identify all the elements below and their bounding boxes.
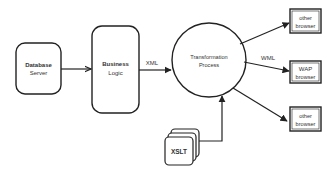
edge-transform-to-browser-bottom — [233, 88, 287, 121]
edge-transform-to-browser-top — [240, 23, 289, 44]
xslt-node: XSLT — [165, 129, 199, 165]
browser-bottom-label-line2: browser — [296, 121, 316, 127]
browser-top-label-line2: browser — [296, 23, 316, 29]
database-server-node: Database Server — [16, 43, 61, 94]
wap-browser-node: WAP browser — [290, 61, 321, 83]
xml-edge-label: XML — [146, 60, 159, 66]
edge-xslt-to-transform — [199, 96, 222, 141]
other-browser-top-node: other browser — [290, 9, 321, 33]
other-browser-bottom-node: other browser — [290, 107, 321, 131]
business-logic-node: Business Logic — [92, 26, 139, 113]
transformation-label-line2: Process — [199, 62, 219, 68]
xslt-label: XSLT — [171, 148, 187, 155]
business-logic-label-line2: Logic — [108, 70, 122, 76]
transformation-label-line1: Transformation — [190, 54, 227, 60]
wap-browser-label-line1: WAP — [299, 66, 312, 72]
edge-transform-to-wap-browser — [244, 62, 289, 71]
database-server-label-line2: Server — [30, 70, 48, 76]
browser-bottom-label-line1: other — [299, 113, 312, 119]
wml-edge-label: WML — [261, 55, 276, 61]
business-logic-label-line1: Business — [102, 61, 129, 67]
browser-top-label-line1: other — [299, 15, 312, 21]
wap-browser-label-line2: browser — [296, 74, 316, 80]
database-server-label-line1: Database — [25, 62, 52, 68]
transformation-process-node: Transformation Process — [172, 23, 246, 97]
architecture-diagram: Database Server Business Logic XML Trans… — [0, 0, 336, 172]
